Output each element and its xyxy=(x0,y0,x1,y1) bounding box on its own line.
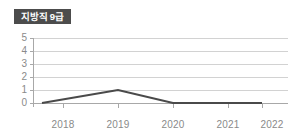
series-line-jibangjik-9geup xyxy=(42,90,262,103)
line-chart: 5 4 3 2 1 0 2018 2019 2020 2021 2022 xyxy=(0,0,294,140)
y-axis-labels: 5 4 3 2 1 0 xyxy=(21,32,27,108)
y-label-4: 4 xyxy=(21,45,27,56)
y-label-5: 5 xyxy=(21,32,27,43)
x-label-2022: 2022 xyxy=(260,119,283,130)
x-axis-labels: 2018 2019 2020 2021 2022 xyxy=(51,119,283,130)
x-label-2020: 2020 xyxy=(161,119,184,130)
x-label-2018: 2018 xyxy=(51,119,74,130)
y-label-2: 2 xyxy=(21,71,27,82)
y-axis-ticks xyxy=(30,39,33,104)
y-label-0: 0 xyxy=(21,97,27,108)
chart-svg: 5 4 3 2 1 0 2018 2019 2020 2021 2022 xyxy=(0,0,294,140)
y-label-1: 1 xyxy=(21,84,27,95)
x-label-2019: 2019 xyxy=(106,119,129,130)
grid-lines xyxy=(33,39,288,91)
x-label-2021: 2021 xyxy=(216,119,239,130)
y-label-3: 3 xyxy=(21,58,27,69)
